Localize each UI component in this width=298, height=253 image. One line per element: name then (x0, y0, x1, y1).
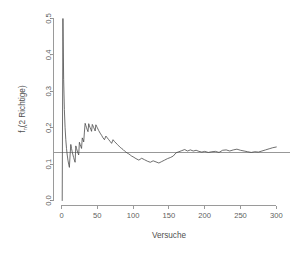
x-tick-label: 50 (93, 211, 101, 220)
y-tick-label: 0.2 (44, 122, 53, 133)
y-tick-label: 0.5 (44, 13, 53, 24)
x-axis-ticks (62, 206, 277, 210)
x-axis-title: Versuche (152, 231, 187, 240)
y-tick-label: 0.3 (44, 86, 53, 97)
y-tick-label: 0.1 (44, 159, 53, 170)
chart-figure: 0.5 0.4 0.3 0.2 0.1 0.0 fn(2 Richtige) (0, 0, 298, 253)
x-tick-label: 300 (270, 211, 283, 220)
x-axis-tick-labels: 0 50 100 150 200 250 300 (59, 211, 282, 220)
y-tick-label: 0.0 (44, 195, 53, 206)
x-tick-label: 100 (127, 211, 140, 220)
y-axis-title-rest: (2 Richtige) (18, 85, 27, 127)
y-axis-title: fn(2 Richtige) (18, 85, 28, 133)
svg-text:fn(2 Richtige): fn(2 Richtige) (18, 85, 28, 133)
x-tick-label: 200 (198, 211, 211, 220)
x-tick-label: 0 (59, 211, 63, 220)
convergence-line-chart: 0.5 0.4 0.3 0.2 0.1 0.0 fn(2 Richtige) (0, 0, 298, 253)
y-axis-tick-labels: 0.5 0.4 0.3 0.2 0.1 0.0 (44, 13, 53, 206)
y-tick-label: 0.4 (44, 50, 53, 61)
y-axis-ticks (50, 19, 54, 201)
x-tick-label: 250 (234, 211, 247, 220)
data-series-line (62, 19, 276, 201)
x-tick-label: 150 (163, 211, 176, 220)
